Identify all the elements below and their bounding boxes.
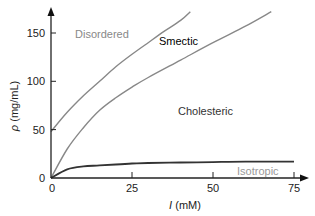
xtick-25: 25: [126, 182, 138, 194]
x-axis-arrow-icon: [300, 175, 309, 182]
region-label-cholesteric: Cholesteric: [178, 105, 234, 117]
phase-diagram: 0 50 100 150 0 25 50 75 I (mM) ρ (mg/mL)…: [0, 0, 315, 216]
ytick-100: 100: [27, 75, 45, 87]
y-tick-labels: 0 50 100 150: [27, 27, 45, 184]
x-tick-labels: 0 25 50 75: [49, 182, 300, 194]
y-axis-arrow-icon: [48, 7, 55, 16]
xtick-0: 0: [49, 182, 55, 194]
ytick-0: 0: [39, 172, 45, 184]
y-ticks: [51, 33, 56, 130]
region-label-disordered: Disordered: [75, 28, 129, 40]
ytick-150: 150: [27, 27, 45, 39]
y-axis-label: ρ (mg/mL): [8, 81, 20, 132]
xtick-75: 75: [288, 182, 300, 194]
region-label-smectic: Smectic: [159, 35, 199, 47]
ytick-50: 50: [33, 124, 45, 136]
region-label-isotropic: Isotropic: [237, 165, 279, 177]
xtick-50: 50: [207, 182, 219, 194]
x-axis-label: I (mM): [169, 199, 201, 211]
chart-svg: 0 50 100 150 0 25 50 75 I (mM) ρ (mg/mL)…: [0, 0, 315, 216]
